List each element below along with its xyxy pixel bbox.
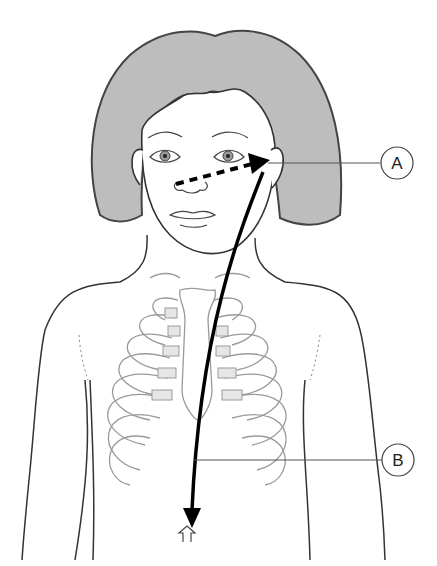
left-arm-inner (75, 380, 88, 560)
body-outline (22, 235, 147, 560)
clavicle-right (215, 274, 250, 279)
label-b: B (382, 444, 414, 476)
anatomy-diagram: A B (0, 0, 437, 566)
right-armpit-dots (310, 335, 320, 380)
label-a: A (381, 147, 413, 179)
solid-arrow-head (183, 508, 201, 528)
label-b-text: B (392, 451, 403, 470)
left-torso (90, 380, 94, 560)
navel (179, 526, 195, 542)
left-armpit-dots (79, 335, 88, 380)
right-arm-inner (303, 380, 310, 560)
label-a-text: A (391, 154, 403, 173)
costal-cartilage (152, 308, 242, 400)
clavicle-left (150, 274, 180, 279)
